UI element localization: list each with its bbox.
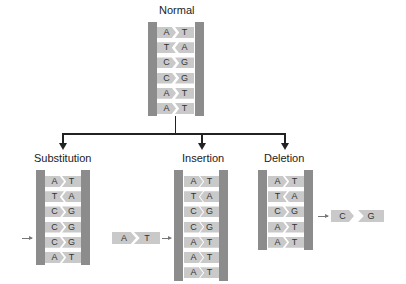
base-left: C <box>184 222 203 233</box>
base-left: A <box>184 237 203 248</box>
deleted-base-right: G <box>358 210 384 222</box>
base-right: G <box>62 206 81 217</box>
base-left: A <box>184 252 203 263</box>
substitution-pointer-arrow-icon <box>22 238 32 239</box>
insertion-pointer-arrow-icon <box>162 238 171 239</box>
right-strand <box>304 170 313 250</box>
base-right: T <box>285 176 304 187</box>
insertion-title: Insertion <box>182 152 224 164</box>
base-left: C <box>45 206 64 217</box>
arrow-down-icon <box>59 143 67 150</box>
base-left: A <box>184 176 203 187</box>
base-left: A <box>268 237 287 248</box>
inserted-base-left: A <box>112 232 136 244</box>
base-left: A <box>45 176 64 187</box>
base-left: A <box>184 267 203 278</box>
base-right: T <box>285 222 304 233</box>
base-left: C <box>45 237 64 248</box>
base-left: A <box>157 88 176 99</box>
base-left: C <box>157 57 176 68</box>
base-right: T <box>175 103 194 114</box>
base-left: A <box>157 103 176 114</box>
base-right: G <box>175 57 194 68</box>
left-strand <box>258 170 267 250</box>
base-right: A <box>62 191 81 202</box>
base-left: T <box>268 191 287 202</box>
base-right: T <box>285 237 304 248</box>
right-strand <box>195 22 204 116</box>
base-right: G <box>175 73 194 84</box>
base-left: A <box>268 176 287 187</box>
substitution-title: Substitution <box>34 152 91 164</box>
right-strand <box>81 170 90 265</box>
base-right: A <box>285 191 304 202</box>
base-left: C <box>184 206 203 217</box>
base-right: T <box>175 88 194 99</box>
base-right: T <box>62 252 81 263</box>
base-right: G <box>62 222 81 233</box>
left-strand <box>148 22 157 116</box>
normal-title: Normal <box>159 4 194 16</box>
base-right: T <box>175 27 194 38</box>
base-left: C <box>157 73 176 84</box>
base-left: C <box>45 222 64 233</box>
base-left: A <box>45 252 64 263</box>
base-right: A <box>200 191 219 202</box>
deleted-base-left: C <box>331 210 354 222</box>
base-left: A <box>268 222 287 233</box>
deletion-title: Deletion <box>264 152 304 164</box>
stem-line <box>175 116 176 133</box>
arrow-down-icon <box>198 143 206 150</box>
base-right: T <box>62 176 81 187</box>
base-left: T <box>157 42 176 53</box>
base-right: G <box>285 206 304 217</box>
right-strand <box>219 170 228 281</box>
base-left: C <box>268 206 287 217</box>
base-left: T <box>45 191 64 202</box>
base-left: A <box>157 27 176 38</box>
base-right: G <box>62 237 81 248</box>
base-right: A <box>175 42 194 53</box>
left-strand <box>36 170 45 265</box>
left-strand <box>174 170 183 281</box>
branch-line <box>62 133 285 135</box>
inserted-base-right: T <box>134 232 160 244</box>
deletion-pointer-arrow-icon <box>318 216 328 217</box>
arrow-down-icon <box>281 143 289 150</box>
